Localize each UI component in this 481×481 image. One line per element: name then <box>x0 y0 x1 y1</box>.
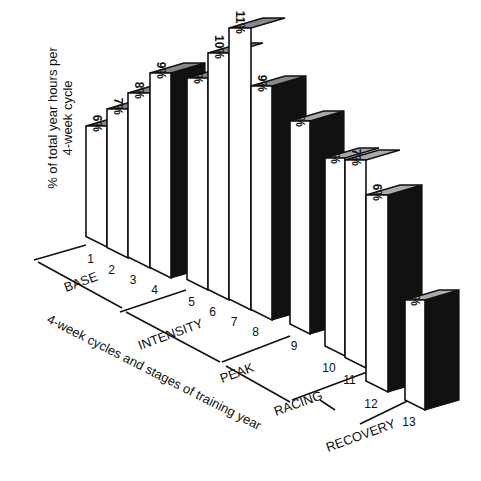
bar-front-face <box>187 78 208 290</box>
bar-front-face <box>86 126 107 247</box>
cycle-number: 12 <box>364 397 378 411</box>
bar-value-label: 9% <box>154 62 168 80</box>
bar-front-face <box>107 109 128 258</box>
cycle-number: 8 <box>252 325 259 339</box>
cycle-number: 7 <box>231 315 238 329</box>
bar-front-face <box>251 86 272 320</box>
stage-line <box>222 336 290 362</box>
bar-value-label: 8% <box>132 82 146 100</box>
bar-front-face <box>325 158 345 356</box>
bar-front-face <box>405 300 425 410</box>
cycle-number: 11 <box>343 373 356 387</box>
bar-side-face <box>425 290 459 410</box>
bar-front-face <box>345 160 366 368</box>
bar-front-face <box>229 28 251 310</box>
cycle-number: 1 <box>87 252 94 266</box>
bar-value-label: 6% <box>370 184 384 202</box>
cycle-number: 5 <box>188 295 195 309</box>
stage-label-intensity: INTENSITY <box>136 315 205 352</box>
bar-value-label: 10% <box>212 35 226 59</box>
cycle-number: 4 <box>151 283 158 297</box>
cycle-number: 2 <box>108 263 115 277</box>
cycle-number: 13 <box>402 415 416 429</box>
bar-front-face <box>290 121 310 334</box>
cycle-number: 6 <box>209 305 216 319</box>
baseline-left <box>34 245 86 260</box>
bar-value-label: 6% <box>90 115 104 133</box>
bar-value-label: 7% <box>349 149 363 167</box>
y-axis-label-line1: % of total year hours per <box>45 47 60 189</box>
stage-label-recovery: RECOVERY <box>324 416 398 455</box>
cycle-number: 10 <box>322 361 336 375</box>
bar-value-label: 8% <box>293 110 307 128</box>
bar-front-face <box>128 93 150 268</box>
bar-value-label: 7% <box>111 98 125 116</box>
y-axis-label-line2: 4-week cycle <box>60 80 75 155</box>
cycle-number: 3 <box>130 273 137 287</box>
stage-label-base: BASE <box>62 269 100 295</box>
bar-front-face <box>150 73 171 278</box>
training-year-chart: 6%17%28%39%49%510%611%79%88%97%107%116%1… <box>0 0 481 481</box>
cycle-number: 9 <box>291 339 298 353</box>
bar-value-label: 9% <box>191 67 205 85</box>
bar-front-face <box>208 53 229 300</box>
bar-value-label: 3% <box>408 289 422 307</box>
chart-canvas: 6%17%28%39%49%510%611%79%88%97%107%116%1… <box>0 0 481 481</box>
bar-front-face <box>366 195 388 392</box>
bar-value-label: 11% <box>233 11 247 35</box>
stage-label-racing: RACING <box>272 387 325 418</box>
stage-label-peak: PEAK <box>218 360 256 386</box>
bar-value-label: 9% <box>255 75 269 93</box>
bar-value-label: 7% <box>328 147 342 165</box>
